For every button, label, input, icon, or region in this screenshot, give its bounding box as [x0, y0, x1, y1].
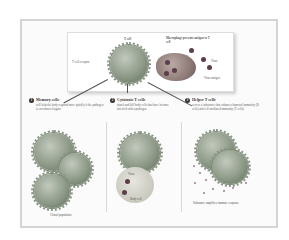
- substance-dot: [199, 172, 201, 174]
- macrophage: [156, 53, 196, 81]
- antigen-label: Virus antigen: [204, 77, 220, 81]
- substance-dot: [205, 179, 207, 181]
- section-memory-title: 1Memory cells: [29, 97, 59, 103]
- antigen-dot: [164, 71, 169, 76]
- substance-dot: [194, 182, 196, 184]
- t-cell: [110, 45, 148, 83]
- virus-dot: [189, 48, 194, 53]
- memory-cell: [34, 174, 70, 208]
- section-helper-title: 3Helper T cells: [185, 97, 216, 103]
- helper-cell: [212, 150, 248, 184]
- virus-dot: [207, 65, 212, 70]
- virus-dot: [201, 57, 206, 62]
- body-cell-label: Body cell: [130, 198, 142, 202]
- antigen-dot: [172, 68, 177, 73]
- t-cell-label: T cell: [124, 38, 131, 42]
- antigen-dot: [165, 60, 170, 65]
- virus-label: Virus: [128, 173, 135, 177]
- virus-label: Virus: [211, 60, 218, 64]
- section-helper-text: secrete a substance that enhances humora…: [192, 103, 262, 111]
- virus-dot: [122, 190, 127, 195]
- macrophage-label: Macrophage presents antigen to T cell: [166, 37, 210, 44]
- substance-dot: [223, 190, 225, 192]
- substance-dot: [212, 188, 214, 190]
- substance-dot: [232, 187, 234, 189]
- substance-caption: Substance amplifies immune response: [193, 201, 239, 205]
- divider: [181, 122, 182, 212]
- substance-dot: [203, 192, 205, 194]
- virus-dot: [125, 179, 130, 184]
- cytotoxic-cell: [120, 134, 160, 172]
- arrow-middle: [127, 84, 128, 93]
- divider: [106, 122, 107, 212]
- substance-dot: [245, 182, 247, 184]
- section-cytotoxic-title: 2Cytotoxic T cells: [110, 97, 145, 103]
- section-cytotoxic-text: attack and kill body cells that have bec…: [117, 103, 177, 111]
- substance-dot: [193, 165, 195, 167]
- clonal-caption: Clonal population: [50, 213, 72, 217]
- section-memory-text: will help the body respond more quickly …: [36, 103, 106, 111]
- receptor-label: T cell receptor: [72, 61, 89, 65]
